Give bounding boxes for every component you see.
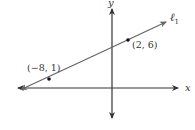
- point-label-2-6: (2, 6): [132, 39, 158, 50]
- point-label-neg8-1: (−8, 1): [27, 62, 61, 73]
- point-neg8-1: [47, 77, 51, 81]
- line-l1: [21, 22, 166, 90]
- line-label: ℓ1: [170, 11, 179, 26]
- point-2-6: [126, 38, 130, 42]
- coordinate-plane: x y ℓ1 (−8, 1) (2, 6): [0, 0, 195, 130]
- y-axis-label: y: [107, 0, 114, 8]
- x-axis-label: x: [185, 82, 191, 93]
